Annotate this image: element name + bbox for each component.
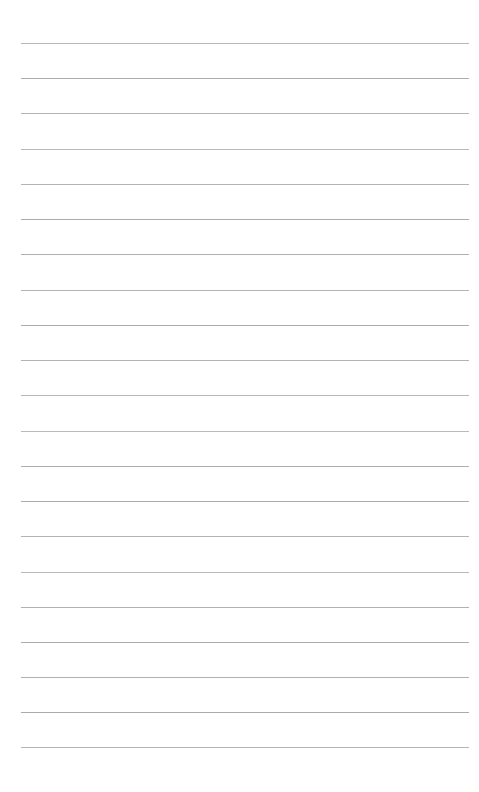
lined-paper-page (0, 0, 479, 792)
writing-area[interactable] (0, 0, 479, 792)
